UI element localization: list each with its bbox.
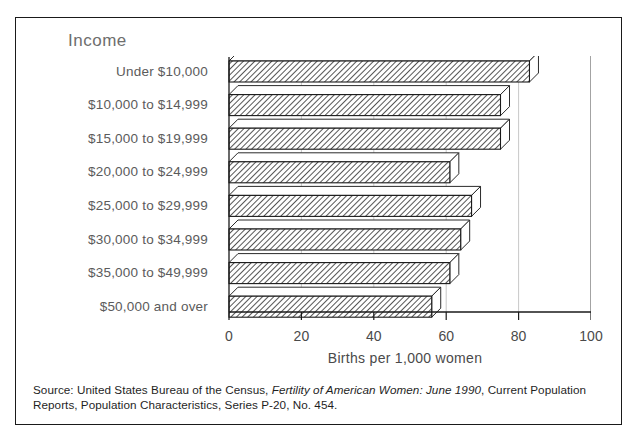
source-prefix: Source: United States Bureau of the Cens… [33,383,272,396]
category-label-column: Under $10,000$10,000 to $14,999$15,000 t… [36,56,208,324]
x-axis-title: Births per 1,000 women [214,350,596,366]
bar [229,56,538,82]
x-tick-label-row: 020406080100 [214,328,614,348]
category-label: $15,000 to $19,999 [88,129,208,149]
bar-top-face [229,287,441,296]
bars-group [229,56,538,317]
chart-title: Income [68,31,127,51]
bar-front-face [229,263,450,284]
figure-panel: Income Under $10,000$10,000 to $14,999$1… [15,17,622,425]
bar [229,220,470,250]
x-tick-label: 60 [438,328,454,344]
source-note: Source: United States Bureau of the Cens… [33,382,608,412]
category-label: $50,000 and over [100,297,208,317]
bar [229,153,459,183]
bar-front-face [229,162,450,183]
plot-area [214,56,591,324]
bar-chart-svg [214,56,591,324]
category-label: $35,000 to $49,999 [88,263,208,283]
x-tick-label: 100 [579,328,602,344]
category-label: $30,000 to $34,999 [88,230,208,250]
bar-top-face [229,86,510,95]
bar-front-face [229,61,529,82]
bar-side-face [529,56,538,82]
bar [229,254,459,284]
bar-front-face [229,195,472,216]
x-tick-label: 0 [225,328,233,344]
bar-front-face [229,229,461,250]
bar-front-face [229,95,501,116]
bar [229,119,510,149]
bar-front-face [229,128,501,149]
bar-front-face [229,296,432,317]
bar-top-face [229,254,459,263]
bar [229,287,441,317]
bar [229,186,481,216]
category-label: $25,000 to $29,999 [88,196,208,216]
category-label: Under $10,000 [116,62,208,82]
bar [229,86,510,116]
category-label: $10,000 to $14,999 [88,95,208,115]
source-publication-title: Fertility of American Women: June 1990 [272,383,481,396]
bar-top-face [229,56,538,61]
bar-top-face [229,220,470,229]
x-tick-label: 20 [294,328,310,344]
bar-top-face [229,119,510,128]
x-tick-label: 80 [511,328,527,344]
category-label: $20,000 to $24,999 [88,162,208,182]
bar-top-face [229,186,481,195]
bar-top-face [229,153,459,162]
x-tick-label: 40 [366,328,382,344]
